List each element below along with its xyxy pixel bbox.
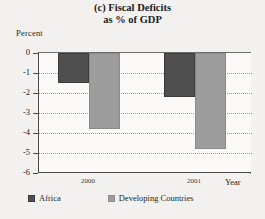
- y-axis-tick: [33, 53, 38, 54]
- y-axis-tick: [33, 93, 38, 94]
- x-axis-tick-label: 2000: [68, 177, 108, 185]
- chart-title-line-1: (c) Fiscal Deficits: [94, 2, 171, 13]
- bar-developing-countries-2001: [195, 53, 226, 149]
- y-axis-tick-label: -4: [4, 127, 30, 137]
- x-axis-title: Year: [225, 177, 241, 187]
- y-axis-label: Percent: [16, 28, 43, 38]
- y-axis-tick: [33, 113, 38, 114]
- y-axis-tick-label: -2: [4, 87, 30, 97]
- y-axis-tick-label: 0: [4, 47, 30, 57]
- legend-label-developing-countries: Developing Countries: [119, 193, 194, 203]
- chart-legend: Africa Developing Countries: [28, 193, 194, 203]
- legend-label-africa: Africa: [39, 193, 61, 203]
- y-axis-tick-label: -6: [4, 167, 30, 177]
- chart-title: (c) Fiscal Deficits as % of GDP: [0, 2, 265, 26]
- y-axis-tick: [33, 153, 38, 154]
- legend-entry-developing-countries: Developing Countries: [108, 193, 194, 203]
- chart-screenshot: (c) Fiscal Deficits as % of GDP Percent …: [0, 0, 265, 219]
- chart-title-line-2: as % of GDP: [0, 14, 265, 26]
- legend-entry-africa: Africa: [28, 193, 61, 203]
- y-axis-tick-label: -1: [4, 67, 30, 77]
- bar-developing-countries-2000: [89, 53, 120, 129]
- legend-swatch-icon-africa: [28, 195, 35, 202]
- legend-swatch-icon-developing-countries: [108, 195, 115, 202]
- y-axis-tick: [33, 173, 38, 174]
- bar-africa-2001: [164, 53, 195, 97]
- y-axis-tick: [33, 73, 38, 74]
- y-axis-tick-label: -3: [4, 107, 30, 117]
- gridline: [39, 153, 252, 154]
- plot-area: [38, 53, 251, 173]
- x-axis-tick-label: 2001: [174, 177, 214, 185]
- y-axis-tick: [33, 133, 38, 134]
- bar-africa-2000: [58, 53, 89, 83]
- y-axis-tick-label: -5: [4, 147, 30, 157]
